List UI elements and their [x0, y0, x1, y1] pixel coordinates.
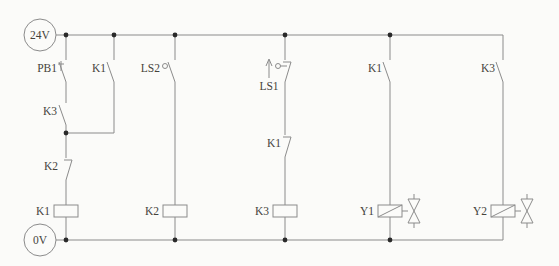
contact-ls1-nc: LS1: [259, 59, 291, 92]
coil-symbol: [273, 205, 297, 217]
coil-symbol: [163, 205, 187, 217]
junction-dot: [388, 33, 393, 38]
junction-dot: [64, 238, 69, 243]
top-rail: 24V: [24, 19, 503, 51]
junction-dot: [173, 33, 178, 38]
contact-pb1-no: PB1: [37, 61, 66, 82]
junction-dot: [173, 238, 178, 243]
coil-label-k1: K1: [36, 205, 50, 217]
contact-k3-no: K3: [481, 62, 503, 82]
limit-switch-roller-icon: [163, 64, 168, 69]
limit-switch-roller-icon: [276, 64, 281, 69]
coil-k3: K3: [255, 205, 297, 217]
junction-dot: [283, 238, 288, 243]
coil-k2: K2: [145, 205, 187, 217]
ladder-diagram: 24V 0V PB1 K3 K2: [0, 0, 559, 266]
junction-dot: [64, 33, 69, 38]
contact-label-k3: K3: [481, 62, 495, 74]
no-contact-blade: [59, 105, 66, 125]
supply-label-24v: 24V: [30, 29, 51, 41]
contact-label-k1: K1: [267, 137, 281, 149]
solenoid-diagonal: [378, 205, 402, 217]
supply-label-0v: 0V: [33, 234, 48, 246]
rung-5: K3 Y2: [473, 35, 533, 240]
rung-1: PB1 K3 K2 K1: [36, 35, 78, 240]
solenoid-label-y1: Y1: [360, 205, 374, 217]
contact-k2-nc: K2: [44, 160, 72, 180]
junction-dot: [64, 131, 69, 136]
rung-4: K1 Y1: [360, 35, 420, 240]
rung-1-branch: K1: [66, 35, 114, 133]
bottom-rail: 0V: [24, 224, 503, 256]
contact-ls2-no: LS2: [141, 62, 175, 82]
no-contact-blade: [59, 62, 66, 82]
junction-dot: [283, 33, 288, 38]
contact-k3-no: K3: [43, 105, 66, 125]
junction-dot: [388, 238, 393, 243]
coil-symbol: [54, 205, 78, 217]
no-contact-blade: [107, 62, 114, 82]
no-contact-blade: [168, 62, 175, 82]
up-arrow-icon: [266, 59, 272, 78]
contact-label-k1: K1: [368, 62, 382, 74]
nc-contact-blade: [66, 160, 72, 180]
contact-label-ls1: LS1: [259, 80, 278, 92]
valve-icon: [402, 194, 420, 228]
no-contact-blade: [496, 62, 503, 82]
contact-k1-nc: K1: [267, 137, 291, 157]
contact-label-k2: K2: [44, 160, 58, 172]
contact-label-ls2: LS2: [141, 62, 160, 74]
rung-3: LS1 K1 K3: [255, 35, 297, 240]
contact-label-k1: K1: [92, 62, 106, 74]
solenoid-diagonal: [491, 205, 515, 217]
coil-k1: K1: [36, 205, 78, 217]
nc-contact-blade: [285, 137, 291, 157]
junction-dots: [64, 33, 393, 243]
coil-label-k3: K3: [255, 205, 269, 217]
no-contact-blade: [383, 62, 390, 82]
contact-label-pb1: PB1: [37, 62, 57, 74]
coil-label-k2: K2: [145, 205, 159, 217]
contact-k1-no-branch: K1: [92, 62, 114, 82]
junction-dot: [112, 33, 117, 38]
rung-2: LS2 K2: [141, 35, 187, 240]
valve-icon: [515, 194, 533, 228]
nc-contact-blade: [285, 62, 291, 82]
contact-label-k3: K3: [43, 105, 57, 117]
solenoid-label-y2: Y2: [473, 205, 487, 217]
contact-k1-no: K1: [368, 62, 390, 82]
